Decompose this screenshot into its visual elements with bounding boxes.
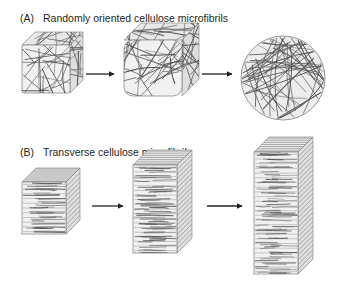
stage-short-box bbox=[22, 168, 80, 239]
cellulose-microfibril-diagram: (A)Randomly oriented cellulose microfibr… bbox=[0, 0, 341, 294]
fibril-line bbox=[42, 203, 65, 204]
fibril-line bbox=[261, 154, 288, 155]
fibril-line bbox=[146, 189, 173, 190]
fibril-line bbox=[255, 260, 278, 261]
fibril-line bbox=[149, 221, 168, 222]
fibril-line bbox=[34, 232, 65, 233]
stage-tallest-box bbox=[254, 137, 313, 279]
fibril-line bbox=[269, 252, 297, 253]
panel-letter-a: (A) bbox=[20, 12, 34, 24]
fibril-line bbox=[33, 183, 62, 184]
panel-title-a: Randomly oriented cellulose microfibrils bbox=[43, 12, 228, 24]
panel-letter-b: (B) bbox=[20, 146, 34, 158]
box-side-face bbox=[177, 150, 192, 253]
stage-tall-box bbox=[133, 150, 192, 258]
